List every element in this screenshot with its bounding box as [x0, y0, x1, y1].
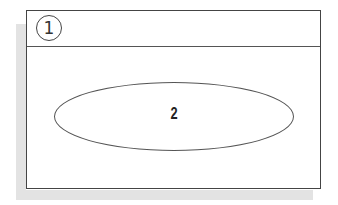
callout-label-2: 2: [168, 106, 179, 122]
window-content-region: 2: [27, 47, 320, 188]
callout-marker-1: 1: [36, 15, 62, 41]
window-shadow-left: [16, 24, 26, 200]
window-header-region: 1: [27, 11, 320, 47]
window-shadow-bottom: [16, 190, 313, 200]
window-frame: 1 2: [26, 10, 321, 189]
